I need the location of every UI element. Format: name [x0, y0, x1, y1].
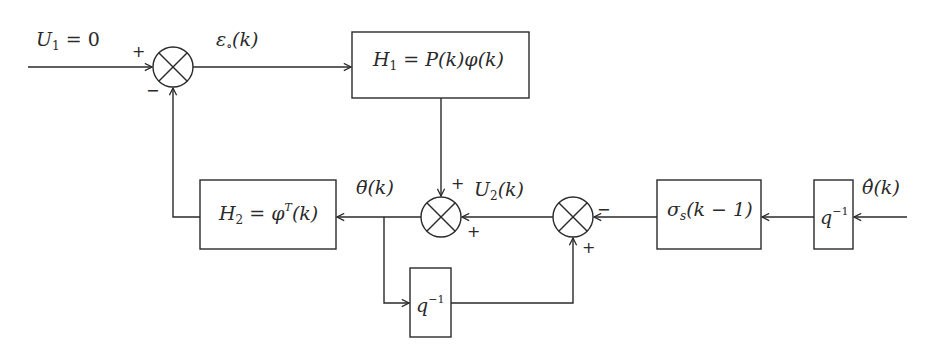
delay-right-superscript: −1: [832, 205, 848, 218]
sigma-rest: (k − 1): [686, 198, 752, 220]
theta-tilde-rest: (k): [367, 176, 393, 198]
h2-mid: = φ: [243, 202, 284, 224]
theta-hat-label: θ̂(k): [862, 178, 900, 197]
h2-rest: (k): [292, 202, 318, 224]
input-subscript: 1: [52, 39, 60, 53]
summing-junction-1: [153, 47, 193, 87]
h2-superscript: T: [285, 201, 292, 214]
sigma-prefix: σ: [667, 198, 680, 220]
h1-rest: = P(k)φ(k): [397, 48, 504, 70]
j3-right-minus-sign: −: [597, 202, 610, 218]
summing-junction-3: [553, 197, 593, 237]
delay-bottom-label: q−1: [416, 294, 444, 315]
delay-right-label: q−1: [820, 206, 848, 227]
h1-block-label: H1 = P(k)φ(k): [373, 50, 504, 72]
error-label: ε∘(k): [216, 30, 258, 52]
theta-tilde-symbol: θ̃: [356, 176, 367, 198]
branch-line: [384, 217, 409, 303]
h2-prefix: H: [219, 202, 236, 224]
input-label: U1 = 0: [36, 30, 100, 52]
theta-hat-symbol: θ̂: [862, 176, 873, 198]
input-symbol: U: [36, 28, 52, 50]
j2-top-plus-sign: +: [451, 176, 464, 192]
delay-right-base: q: [820, 206, 832, 228]
input-rest: = 0: [60, 28, 100, 50]
j1-minus-sign: −: [146, 83, 159, 99]
j1-plus-sign: +: [132, 44, 145, 60]
h1-prefix: H: [373, 48, 390, 70]
delay-bottom-superscript: −1: [428, 293, 444, 306]
theta-hat-rest: (k): [873, 176, 899, 198]
delay-bottom-output-line: [451, 238, 573, 303]
u2-subscript: 2: [490, 189, 498, 203]
h2-block-label: H2 = φT(k): [219, 202, 318, 226]
delay-bottom-base: q: [416, 294, 428, 316]
error-rest: (k): [232, 28, 258, 50]
theta-tilde-label: θ̃(k): [356, 178, 394, 197]
summing-junction-2: [421, 197, 461, 237]
sigma-block-label: σs(k − 1): [667, 200, 753, 222]
error-symbol: ε: [216, 28, 226, 50]
j2-right-plus-sign: +: [467, 224, 480, 240]
u2-symbol: U: [474, 178, 490, 200]
feedback-line: [173, 88, 200, 217]
u2-label: U2(k): [474, 180, 524, 202]
u2-rest: (k): [498, 178, 524, 200]
j3-bottom-plus-sign: +: [582, 240, 595, 256]
